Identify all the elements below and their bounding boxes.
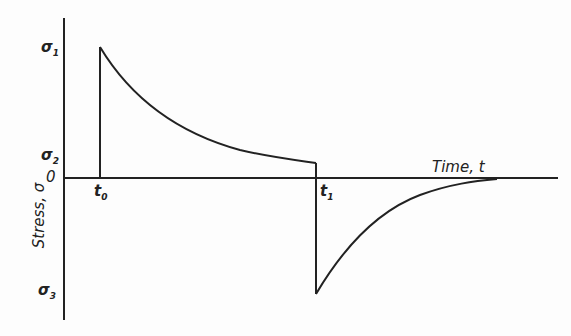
y-axis-title: Stress, σ: [32, 161, 47, 271]
sigma-symbol: σ: [38, 281, 50, 299]
x-axis-title: Time, t: [432, 160, 485, 175]
subscript: 1: [327, 192, 333, 202]
subscript: 2: [53, 156, 59, 166]
sigma-symbol: σ: [41, 38, 53, 56]
y-tick-sigma1: σ1: [41, 40, 59, 55]
relaxation-curve: [100, 47, 316, 163]
x-tick-t1: t1: [320, 184, 333, 199]
subscript: 3: [50, 291, 56, 301]
stress-relaxation-diagram: σ1 σ2 0 σ3 t0 t1 Time, t Stress, σ: [0, 0, 571, 336]
diagram-canvas: [0, 0, 571, 336]
subscript: 1: [53, 48, 59, 58]
subscript: 0: [101, 192, 107, 202]
y-tick-sigma3: σ3: [38, 283, 56, 298]
x-tick-t0: t0: [94, 184, 107, 199]
recovery-curve: [316, 179, 497, 294]
